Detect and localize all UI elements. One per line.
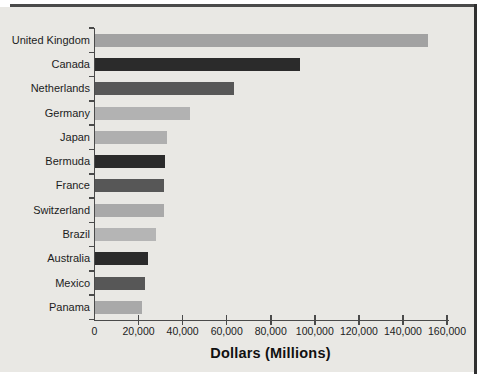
bar-mexico (95, 277, 145, 290)
x-axis-tick (270, 315, 272, 325)
bar-germany (95, 107, 190, 120)
category-label: France (0, 179, 90, 192)
y-axis-tick (89, 319, 94, 321)
category-label: Mexico (0, 277, 90, 290)
category-label: Netherlands (0, 82, 90, 95)
bar-france (95, 179, 163, 192)
bar-panama (95, 301, 141, 314)
category-label: Brazil (0, 228, 90, 241)
category-label: Switzerland (0, 204, 90, 217)
bar-canada (95, 58, 300, 71)
x-axis-tick (402, 315, 404, 325)
y-axis-tick (89, 100, 94, 102)
category-label: Australia (0, 252, 90, 265)
category-label: Bermuda (0, 155, 90, 168)
bar-united-kingdom (95, 34, 428, 47)
y-axis-tick (89, 124, 94, 126)
y-axis-tick (89, 76, 94, 78)
category-label: Japan (0, 131, 90, 144)
y-axis-tick (89, 270, 94, 272)
bar-brazil (95, 228, 156, 241)
bar-japan (95, 131, 167, 144)
x-tick-label: 160,000 (415, 325, 479, 337)
x-axis-tick (138, 315, 140, 325)
category-label: Panama (0, 301, 90, 314)
bar-chart: Dollars (Millions) United KingdomCanadaN… (0, 0, 486, 381)
figure: Dollars (Millions) United KingdomCanadaN… (0, 0, 486, 381)
category-label: Canada (0, 58, 90, 71)
y-axis-tick (89, 173, 94, 175)
category-label: Germany (0, 107, 90, 120)
x-axis-tick (314, 315, 316, 325)
x-axis-tick (446, 315, 448, 325)
y-axis-tick (89, 222, 94, 224)
y-axis-tick (89, 197, 94, 199)
bar-australia (95, 252, 148, 265)
y-axis-tick (89, 27, 94, 29)
y-axis-tick (89, 149, 94, 151)
y-axis-tick (89, 52, 94, 54)
x-axis-title: Dollars (Millions) (94, 345, 447, 361)
y-axis-tick (89, 294, 94, 296)
bar-bermuda (95, 155, 164, 168)
bar-switzerland (95, 204, 163, 217)
y-axis-tick (89, 246, 94, 248)
bar-netherlands (95, 82, 234, 95)
x-axis-tick (226, 315, 228, 325)
x-axis-tick (358, 315, 360, 325)
x-axis-tick (182, 315, 184, 325)
category-label: United Kingdom (0, 34, 90, 47)
